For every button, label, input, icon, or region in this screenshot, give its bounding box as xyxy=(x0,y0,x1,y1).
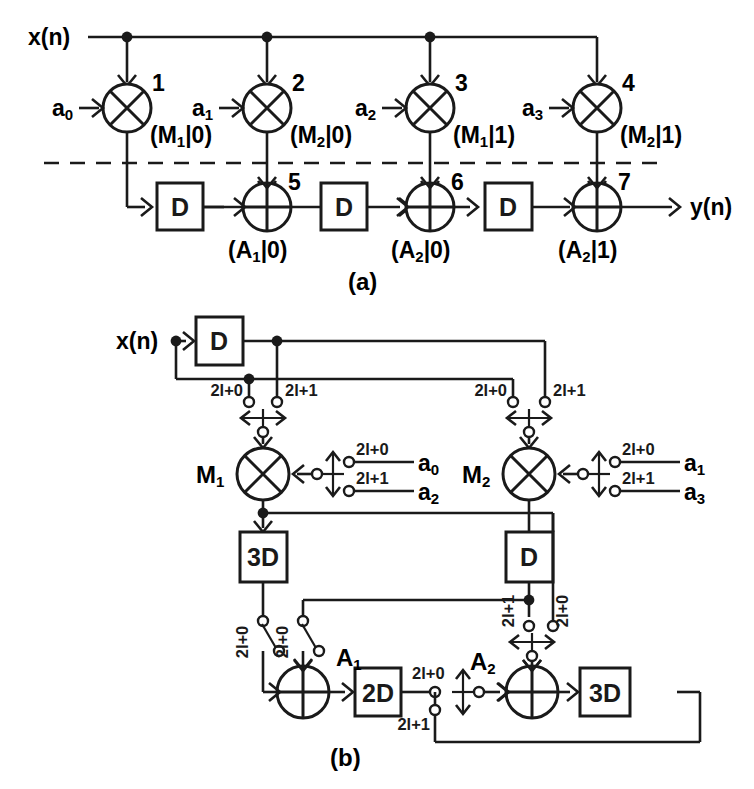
multiplier-3-folding-set: (M1|1) xyxy=(453,122,515,150)
a5-fold-tail: |0) xyxy=(261,237,288,263)
delay-box-b-2d-label: 2D xyxy=(362,679,394,707)
panel-a-input-label: x(n) xyxy=(28,24,70,51)
delay-box-a-1[interactable]: D xyxy=(157,183,203,230)
panel-b-input-label: x(n) xyxy=(116,328,158,355)
coef-m2-0-name: a xyxy=(684,450,697,476)
coefficient-m1-a0: a0 xyxy=(418,450,439,478)
a2-to-3d xyxy=(558,683,578,701)
a5-fold-sub: 1 xyxy=(252,248,260,265)
adder-6[interactable] xyxy=(397,177,478,231)
coefficient-m1-a2: a2 xyxy=(418,479,439,507)
m4-fold-tail: |1) xyxy=(655,122,682,148)
m2-name: M xyxy=(462,461,482,488)
multiplier-1-folding-set: (M1|0) xyxy=(150,122,212,150)
coef-m1-0-sub: 0 xyxy=(431,461,439,478)
multiplier-1-index: 1 xyxy=(152,70,165,97)
coefficient-m2-phase-1: 2l+1 xyxy=(622,469,655,487)
input-switch-right[interactable]: 2l+0 2l+1 xyxy=(474,381,585,448)
multiplier-m2[interactable] xyxy=(503,448,555,500)
adder-a1-label: A1 xyxy=(336,644,362,673)
m1-name-sub: 1 xyxy=(216,473,224,490)
adder-a2[interactable] xyxy=(498,660,558,718)
a1-name: A xyxy=(336,644,353,671)
multiplier-m1[interactable] xyxy=(237,448,289,500)
coefficient-a3-sub: 3 xyxy=(535,106,543,123)
panel-a-output-text: y(n) xyxy=(690,194,732,220)
input-switch-right-even-label: 2l+0 xyxy=(474,381,507,399)
caption-a: (a) xyxy=(348,268,377,296)
m2-fold-head: (M xyxy=(290,122,317,148)
multiplier-1[interactable] xyxy=(103,84,151,132)
delay-box-a-2[interactable]: D xyxy=(321,183,367,230)
multiplier-4[interactable] xyxy=(573,84,621,132)
adder-a1[interactable] xyxy=(269,660,329,718)
a2-switch-label-0: 2l+1 xyxy=(499,595,517,628)
delay-box-b-3d-left[interactable]: 3D xyxy=(240,532,287,582)
m4-fold-sub: 2 xyxy=(647,133,655,150)
a1-to-2d xyxy=(329,683,353,701)
panel-a-output-label: y(n) xyxy=(690,194,732,221)
m1-name: M xyxy=(196,461,216,488)
delay-box-b-d-right[interactable]: D xyxy=(506,532,553,582)
multiplier-m2-label: M2 xyxy=(462,461,490,490)
coefficient-a0-sub: 0 xyxy=(65,106,73,123)
multiplier-2-folding-set: (M2|0) xyxy=(290,122,352,150)
delay-box-a-3-label: D xyxy=(499,193,517,221)
input-switch-left[interactable]: 2l+0 2l+1 xyxy=(210,381,317,448)
coefficient-m2-phase-0: 2l+0 xyxy=(622,440,655,458)
delay-box-b-2d[interactable]: 2D xyxy=(355,668,401,716)
adder-5-folding-set: (A1|0) xyxy=(228,237,288,265)
multiplier-4-index: 4 xyxy=(622,70,635,97)
coefficient-m1-phase-0: 2l+0 xyxy=(356,440,389,458)
a5-fold-head: (A xyxy=(228,237,252,263)
adder-5[interactable] xyxy=(234,177,291,231)
adder-a2-label: A2 xyxy=(470,648,496,677)
caption-b: (b) xyxy=(330,744,361,772)
m1-fold-sub: 1 xyxy=(177,133,185,150)
a1-name-sub: 1 xyxy=(353,656,361,673)
m2-name-sub: 2 xyxy=(482,473,490,490)
a2-name-sub: 2 xyxy=(487,660,495,677)
coefficient-label-a3: a3 xyxy=(522,95,543,123)
delay-box-b-3d-left-label: 3D xyxy=(247,543,279,571)
coefficient-m2-a3: a3 xyxy=(684,479,705,507)
adder-6-folding-set: (A2|0) xyxy=(391,237,451,265)
adder-7-folding-set: (A2|1) xyxy=(558,237,618,265)
adder-7-index: 7 xyxy=(618,169,631,196)
panel-a-input-text: x(n) xyxy=(28,24,70,50)
figure-root: D D D xyxy=(0,0,754,789)
coefficient-switch-m1[interactable]: 2l+0 2l+1 xyxy=(293,440,414,496)
multiplier-3[interactable] xyxy=(406,84,454,132)
a1-switch-label-0: 2l+0 xyxy=(233,626,251,659)
coefficient-switch-m2[interactable]: 2l+0 2l+1 xyxy=(559,440,680,496)
delay-box-b-3d-right[interactable]: 3D xyxy=(580,668,630,716)
a2-top-switch[interactable]: 2l+1 2l+0 xyxy=(499,595,571,671)
coefficient-a3-name: a xyxy=(522,95,535,121)
a6-fold-tail: |0) xyxy=(424,237,451,263)
coef-m1-1-sub: 2 xyxy=(431,490,439,507)
multiplier-2[interactable] xyxy=(243,84,291,132)
a2-name: A xyxy=(470,648,487,675)
m3-fold-sub: 1 xyxy=(480,133,488,150)
output-2d-label-odd: 2l+1 xyxy=(397,715,430,733)
delay-box-a-2-label: D xyxy=(335,193,353,221)
input-switch-right-odd-label: 2l+1 xyxy=(553,381,586,399)
m3-fold-tail: |1) xyxy=(488,122,515,148)
m2-fold-tail: |0) xyxy=(325,122,352,148)
delay-box-b-input-label: D xyxy=(210,327,228,355)
output-2d-label-even: 2l+0 xyxy=(412,664,445,682)
a2-switch-label-1: 2l+0 xyxy=(553,595,571,628)
m1-fold-tail: |0) xyxy=(185,122,212,148)
input-switch-left-even-label: 2l+0 xyxy=(210,381,243,399)
coefficient-a2-name: a xyxy=(355,95,368,121)
coef-m2-0-sub: 1 xyxy=(697,461,705,478)
delay-box-a-3[interactable]: D xyxy=(485,183,532,230)
input-switch-left-odd-label: 2l+1 xyxy=(285,381,318,399)
coefficient-a0-name: a xyxy=(52,95,65,121)
adder-7[interactable] xyxy=(564,177,621,231)
coefficient-label-a2: a2 xyxy=(355,95,376,123)
a7-fold-head: (A xyxy=(558,237,582,263)
delay-box-a-1-label: D xyxy=(171,193,189,221)
panel-a-mult-feeds xyxy=(118,37,606,86)
panel-b: D 2l+0 2l+1 xyxy=(171,317,700,742)
